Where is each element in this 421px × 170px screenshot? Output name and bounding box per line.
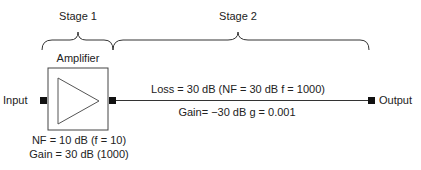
line-loss-label: Loss = 30 dB (NF = 30 dB f = 1000)	[151, 83, 325, 95]
line-gain-label: Gain= −30 dB g = 0.001	[178, 106, 295, 118]
stage-2-brace	[113, 32, 369, 50]
amplifier-gain-label: Gain = 30 dB (1000)	[29, 148, 128, 160]
amplifier-title: Amplifier	[57, 52, 100, 64]
output-port	[368, 97, 375, 104]
input-port	[40, 97, 47, 104]
stage-2-label: Stage 2	[219, 10, 257, 22]
amplifier-box	[48, 68, 108, 130]
output-label: Output	[379, 94, 412, 106]
amplifier-output-port	[109, 97, 116, 104]
amplifier-nf-label: NF = 10 dB (f = 10)	[32, 134, 126, 146]
stage-1-brace	[42, 32, 113, 50]
input-label: Input	[3, 94, 27, 106]
stage-1-label: Stage 1	[59, 10, 97, 22]
